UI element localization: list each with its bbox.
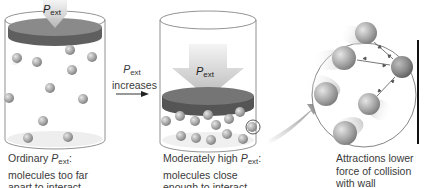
zoom-arrow: [268, 104, 318, 144]
transition-arrow: [116, 91, 149, 97]
caption-high: Moderately high Pext: molecules close en…: [163, 152, 261, 188]
cylinder-high: [160, 11, 260, 152]
zoom-detail: [303, 21, 418, 147]
transition-label: Pext increases: [112, 63, 152, 91]
caption-ordinary: Ordinary Pext: molecules too far apart t…: [8, 152, 88, 188]
pext-label-ordinary: Pext: [43, 3, 61, 17]
caption-zoom: Attractions lower force of collision wit…: [336, 152, 414, 188]
cylinder-ordinary: [4, 0, 105, 149]
pext-label-high: Pext: [196, 65, 214, 79]
